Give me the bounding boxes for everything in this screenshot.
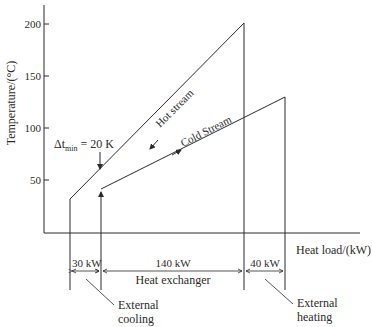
cooling-leader-line [86, 279, 114, 305]
heat-exchanger-label: Heat exchanger [136, 273, 211, 287]
heating-load-value: 40 kW [250, 257, 280, 269]
hot-stream [70, 23, 244, 290]
exchanger-load-value: 140 kW [155, 257, 191, 269]
external-heating-label: External heating [297, 296, 341, 324]
y-tick-label-100: 100 [25, 122, 42, 134]
composite-curve-diagram: 200 150 100 50 Temperature/(°C) Heat loa… [0, 0, 372, 327]
hot-stream-arrow-icon [150, 140, 158, 149]
external-cooling-label: External cooling [118, 298, 162, 326]
cooling-load-value: 30 kW [72, 257, 102, 269]
x-axis-label: Heat load/(kW) [296, 243, 371, 257]
y-tick-label-150: 150 [25, 70, 42, 82]
y-tick-label-50: 50 [30, 174, 42, 186]
cold-stream-label: Cold Stream [178, 113, 233, 149]
y-axis-label: Temperature/(°C) [4, 61, 18, 146]
delta-t-min-label: Δtmin= 20 K [54, 137, 114, 153]
heating-leader-line [265, 279, 293, 304]
y-tick-label-200: 200 [25, 18, 42, 30]
axes [44, 5, 360, 233]
